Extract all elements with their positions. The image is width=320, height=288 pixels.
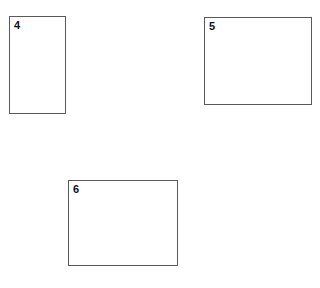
figure-label-6: 6	[73, 183, 79, 195]
figure-label-4: 4	[14, 19, 20, 31]
figure-rectangle-6[interactable]: 6	[68, 180, 178, 266]
figure-canvas: 4 5 6	[0, 0, 320, 288]
figure-rectangle-4[interactable]: 4	[9, 16, 66, 114]
figure-rectangle-5[interactable]: 5	[204, 17, 312, 105]
figure-label-5: 5	[209, 20, 215, 32]
